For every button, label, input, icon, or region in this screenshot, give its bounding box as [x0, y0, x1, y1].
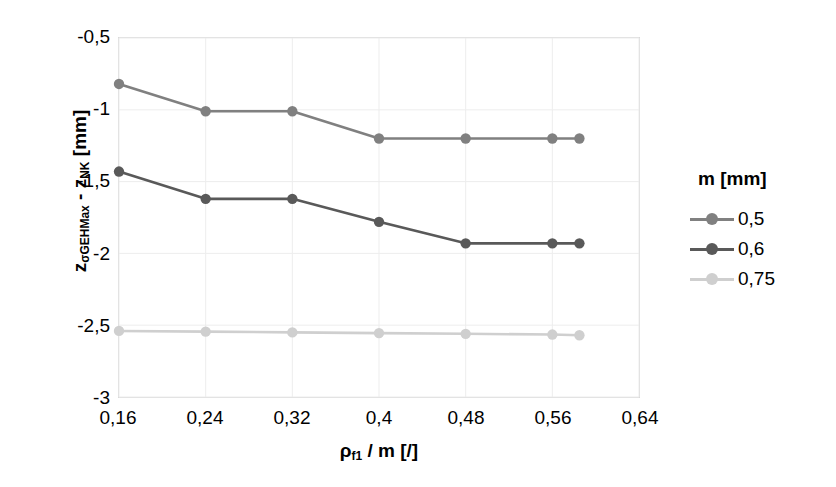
legend-swatch-icon — [690, 242, 734, 256]
data-point-marker — [574, 330, 584, 340]
x-tick-label: 0,24 — [165, 408, 245, 427]
x-axis-title: ρf1 / m [/] — [118, 440, 640, 462]
series-1 — [114, 79, 585, 144]
data-point-marker — [574, 238, 584, 248]
x-tick-label: 0,64 — [600, 408, 680, 427]
data-point-marker — [287, 327, 297, 337]
y-tick-label: -3 — [40, 388, 110, 407]
data-point-marker — [374, 133, 384, 143]
data-point-marker — [200, 106, 210, 116]
legend-label: 0,6 — [738, 238, 764, 260]
data-point-marker — [287, 106, 297, 116]
legend-entry: 0,75 — [690, 264, 830, 294]
data-point-marker — [374, 328, 384, 338]
legend-marker-icon — [706, 213, 718, 225]
legend-label: 0,5 — [738, 208, 764, 230]
x-tick-label: 0,56 — [513, 408, 593, 427]
series-line — [119, 84, 579, 139]
x-tick-label: 0,48 — [426, 408, 506, 427]
series-line — [119, 331, 579, 335]
data-point-marker — [574, 133, 584, 143]
data-point-marker — [547, 329, 557, 339]
data-point-marker — [114, 326, 124, 336]
x-tick-label: 0,32 — [252, 408, 332, 427]
data-point-marker — [114, 166, 124, 176]
data-point-marker — [287, 194, 297, 204]
data-point-marker — [114, 79, 124, 89]
plot-area — [118, 37, 640, 398]
legend-title: m [mm] — [698, 168, 830, 190]
data-point-marker — [460, 133, 470, 143]
legend-entry: 0,5 — [690, 204, 830, 234]
legend-entry: 0,6 — [690, 234, 830, 264]
series-line — [119, 172, 579, 244]
legend: m [mm] 0,50,60,75 — [690, 168, 830, 294]
series-2 — [114, 166, 585, 248]
legend-swatch-icon — [690, 212, 734, 226]
legend-entries: 0,50,60,75 — [690, 204, 830, 294]
legend-marker-icon — [706, 243, 718, 255]
y-tick-label: -1,5 — [40, 171, 110, 190]
data-point-marker — [547, 133, 557, 143]
y-axis-title: zσGEHMax - zNK [mm] — [69, 51, 91, 331]
y-tick-label: -2 — [40, 244, 110, 263]
data-point-marker — [460, 329, 470, 339]
x-tick-label: 0,16 — [78, 408, 158, 427]
chart-figure: zσGEHMax - zNK [mm] -0,5-1-1,5-2-2,5-3 0… — [0, 0, 836, 487]
data-point-marker — [460, 238, 470, 248]
data-point-marker — [374, 217, 384, 227]
x-tick-label: 0,4 — [339, 408, 419, 427]
data-series-layer — [119, 38, 639, 397]
legend-swatch-icon — [690, 272, 734, 286]
y-tick-label: -0,5 — [40, 27, 110, 46]
legend-marker-icon — [706, 273, 718, 285]
legend-label: 0,75 — [738, 268, 775, 290]
y-tick-label: -1 — [40, 99, 110, 118]
data-point-marker — [200, 194, 210, 204]
data-point-marker — [547, 238, 557, 248]
series-3 — [114, 326, 585, 341]
y-tick-label: -2,5 — [40, 316, 110, 335]
data-point-marker — [200, 326, 210, 336]
